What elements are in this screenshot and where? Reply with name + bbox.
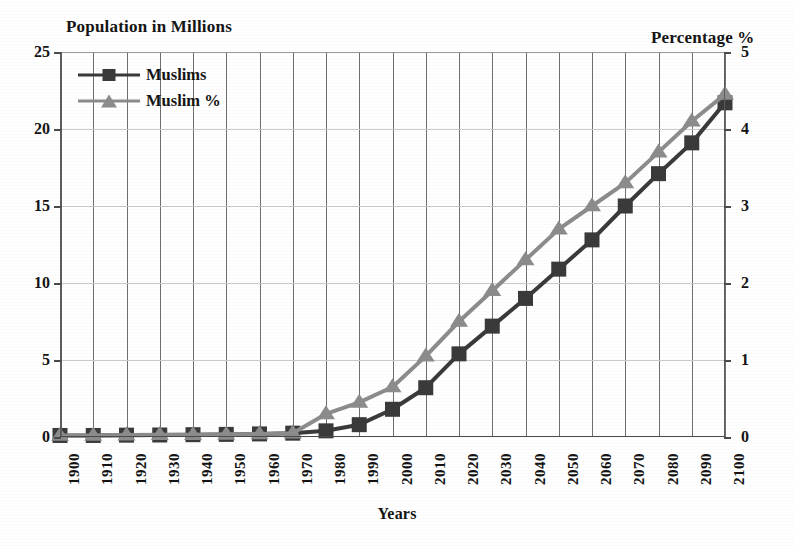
chart-canvas: Population in Millions Percentage % Musl… <box>0 0 794 549</box>
y-axis-tick-label-left: 5 <box>18 352 50 368</box>
x-axis-line <box>60 436 725 438</box>
y-axis-line-right <box>724 52 726 437</box>
x-axis-tick-label: 2030 <box>498 453 515 485</box>
y-axis-tick-mark-right <box>724 206 731 208</box>
data-point-marker-square <box>385 402 400 417</box>
data-point-marker-square <box>618 199 633 214</box>
x-axis-tick-label: 2100 <box>731 453 748 485</box>
x-axis-tick-label: 1930 <box>166 453 183 485</box>
plot-border-top <box>60 52 725 53</box>
y-axis-tick-label-left: 10 <box>18 275 50 291</box>
data-point-marker-triangle <box>716 86 734 100</box>
x-axis-tick-label: 2020 <box>465 453 482 485</box>
y-axis-tick-label-left: 15 <box>18 198 50 214</box>
legend-label-muslim-pct: Muslim % <box>146 91 221 111</box>
x-axis-tick-label: 1970 <box>299 453 316 485</box>
y-axis-tick-label-left: 25 <box>18 44 50 60</box>
data-point-marker-square <box>418 380 433 395</box>
data-point-marker-square <box>651 166 666 181</box>
y-axis-tick-label-right: 4 <box>741 121 773 137</box>
y-axis-tick-mark-left <box>54 360 61 362</box>
x-axis-tick-label: 1950 <box>232 453 249 485</box>
right-axis-title: Percentage % <box>651 28 755 48</box>
data-point-marker-square <box>485 319 500 334</box>
x-axis-tick-label: 2070 <box>631 453 648 485</box>
data-point-marker-square <box>551 262 566 277</box>
y-axis-tick-mark-right <box>724 437 731 439</box>
y-axis-tick-mark-left <box>54 52 61 54</box>
data-point-marker-square <box>585 232 600 247</box>
x-axis-tick-label: 1990 <box>365 453 382 485</box>
legend-item-muslim-pct: Muslim % <box>78 88 221 114</box>
data-point-marker-square <box>352 417 367 432</box>
y-axis-tick-mark-left <box>54 437 61 439</box>
plot-area: Muslims Muslim % <box>60 52 725 437</box>
x-axis-title: Years <box>0 505 794 523</box>
data-point-marker-square <box>452 346 467 361</box>
y-axis-tick-mark-right <box>724 129 731 131</box>
y-axis-tick-label-right: 5 <box>741 44 773 60</box>
legend-label-muslims: Muslims <box>146 65 207 85</box>
chart-legend: Muslims Muslim % <box>72 60 227 118</box>
legend-key-square-icon <box>78 66 140 84</box>
x-axis-tick-label: 2000 <box>399 453 416 485</box>
legend-key-triangle-icon <box>78 92 140 110</box>
y-axis-tick-label-right: 3 <box>741 198 773 214</box>
legend-item-muslims: Muslims <box>78 62 221 88</box>
x-axis-tick-label: 1900 <box>66 453 83 485</box>
x-axis-tick-label: 1960 <box>266 453 283 485</box>
x-axis-tick-label: 1920 <box>133 453 150 485</box>
x-axis-tick-label: 1980 <box>332 453 349 485</box>
data-point-marker-square <box>518 291 533 306</box>
y-axis-tick-label-right: 0 <box>741 429 773 445</box>
x-axis-tick-label: 2060 <box>598 453 615 485</box>
y-axis-tick-label-left: 20 <box>18 121 50 137</box>
y-axis-tick-mark-right <box>724 52 731 54</box>
x-axis-tick-label: 2040 <box>532 453 549 485</box>
x-axis-tick-label: 2080 <box>665 453 682 485</box>
y-axis-tick-label-left: 0 <box>18 429 50 445</box>
y-axis-tick-mark-left <box>54 283 61 285</box>
x-axis-tick-label: 2050 <box>565 453 582 485</box>
left-axis-title: Population in Millions <box>66 17 232 37</box>
x-axis-tick-label: 1940 <box>199 453 216 485</box>
x-axis-tick-label: 2010 <box>432 453 449 485</box>
y-axis-tick-mark-left <box>54 129 61 131</box>
y-axis-tick-label-right: 1 <box>741 352 773 368</box>
x-axis-tick-label: 2090 <box>698 453 715 485</box>
y-axis-tick-mark-left <box>54 206 61 208</box>
data-point-marker-square <box>684 135 699 150</box>
y-axis-line-left <box>60 52 62 437</box>
x-axis-tick-label: 1910 <box>99 453 116 485</box>
y-axis-tick-mark-right <box>724 360 731 362</box>
y-axis-tick-label-right: 2 <box>741 275 773 291</box>
y-axis-tick-mark-right <box>724 283 731 285</box>
